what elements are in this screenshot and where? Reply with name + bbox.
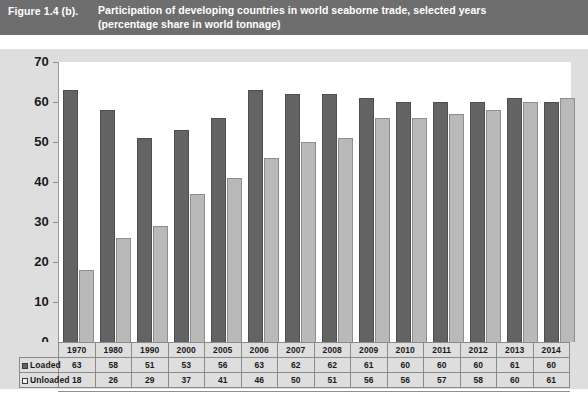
bar-loaded-2008: [322, 94, 337, 342]
bar-group-2005: [208, 62, 245, 342]
legend-label-loaded: Loaded: [30, 360, 61, 370]
table-cell-unloaded-2011: 57: [424, 373, 461, 388]
bar-group-1980: [97, 62, 134, 342]
figure-caption-line-1: Participation of developing countries in…: [98, 4, 486, 16]
bar-unloaded-2009: [375, 118, 390, 342]
table-row-unloaded: Unloaded1826293741465051565657586061: [20, 373, 570, 388]
table-header-year: 1990: [132, 343, 169, 358]
bar-unloaded-1990: [153, 226, 168, 342]
table-cell-loaded-1980: 58: [95, 358, 132, 373]
bar-group-2009: [356, 62, 393, 342]
bar-group-1970: [60, 62, 97, 342]
bar-group-2012: [467, 62, 504, 342]
table-cell-unloaded-2013: 60: [497, 373, 534, 388]
table-cell-loaded-2006: 63: [241, 358, 278, 373]
bar-unloaded-2006: [264, 158, 279, 342]
table-header-year: 2009: [351, 343, 388, 358]
figure-header: Figure 1.4 (b). Participation of develop…: [0, 0, 588, 35]
bar-unloaded-2008: [338, 138, 353, 342]
x-axis-line: [58, 391, 570, 392]
data-table: 1970198019902000200520062007200820092010…: [19, 342, 570, 388]
figure-caption-line-2: (percentage share in world tonnage): [98, 17, 486, 31]
table-cell-loaded-1970: 63: [59, 358, 96, 373]
bar-group-2000: [171, 62, 208, 342]
table-header-year: 2013: [497, 343, 534, 358]
bar-unloaded-2012: [486, 110, 501, 342]
table-cell-unloaded-2009: 56: [351, 373, 388, 388]
table-cell-loaded-2005: 56: [205, 358, 242, 373]
table-header-year: 2014: [533, 343, 570, 358]
table-row-loaded: Loaded6358515356636262616060606160: [20, 358, 570, 373]
bar-group-1990: [134, 62, 171, 342]
bar-group-2013: [504, 62, 541, 342]
table-cell-loaded-2014: 60: [533, 358, 570, 373]
table-header-year: 1980: [95, 343, 132, 358]
table-header-year: 2012: [460, 343, 497, 358]
table-cell-loaded-2009: 61: [351, 358, 388, 373]
bar-loaded-2014: [544, 102, 559, 342]
bar-group-2011: [430, 62, 467, 342]
bar-loaded-2011: [433, 102, 448, 342]
table-cell-unloaded-2000: 37: [168, 373, 205, 388]
bar-group-2007: [282, 62, 319, 342]
figure-caption: Participation of developing countries in…: [98, 3, 486, 31]
table-header-year: 2007: [278, 343, 315, 358]
legend-item-unloaded[interactable]: Unloaded: [20, 373, 59, 388]
bar-group-2014: [541, 62, 578, 342]
table-cell-loaded-2008: 62: [314, 358, 351, 373]
bar-loaded-2006: [248, 90, 263, 342]
table-header-year: 2006: [241, 343, 278, 358]
bar-loaded-2007: [285, 94, 300, 342]
table-cell-unloaded-1980: 26: [95, 373, 132, 388]
bar-unloaded-1980: [116, 238, 131, 342]
figure-number: Figure 1.4 (b).: [8, 3, 98, 18]
bar-loaded-1990: [137, 138, 152, 342]
legend-label-unloaded: Unloaded: [30, 375, 70, 385]
table-header-year: 2000: [168, 343, 205, 358]
table-header-year: 2008: [314, 343, 351, 358]
bar-loaded-2005: [211, 118, 226, 342]
table-cell-loaded-2012: 60: [460, 358, 497, 373]
bar-unloaded-2000: [190, 194, 205, 342]
table-corner-cell: [20, 343, 59, 358]
y-axis-tick-label: 40: [34, 174, 49, 189]
table-header-year: 1970: [59, 343, 96, 358]
bar-loaded-2010: [396, 102, 411, 342]
bar-loaded-1980: [100, 110, 115, 342]
table-cell-loaded-1990: 51: [132, 358, 169, 373]
y-axis: 010203040506070: [0, 62, 58, 342]
hollow-square-icon: [22, 378, 28, 384]
bar-loaded-1970: [63, 90, 78, 342]
table-header-year: 2010: [387, 343, 424, 358]
table-cell-unloaded-2012: 58: [460, 373, 497, 388]
table-row-years: 1970198019902000200520062007200820092010…: [20, 343, 570, 358]
bar-unloaded-2005: [227, 178, 242, 342]
chart-panel: 010203040506070 197019801990200020052006…: [0, 49, 588, 389]
bar-series-group: [59, 62, 571, 342]
table-cell-loaded-2013: 61: [497, 358, 534, 373]
table-cell-unloaded-2008: 51: [314, 373, 351, 388]
y-axis-tick-label: 50: [34, 134, 49, 149]
bar-unloaded-2010: [412, 118, 427, 342]
y-axis-tick-label: 20: [34, 254, 49, 269]
table-cell-loaded-2010: 60: [387, 358, 424, 373]
bar-loaded-2013: [507, 98, 522, 342]
bar-group-2008: [319, 62, 356, 342]
y-axis-tick-label: 70: [34, 54, 49, 69]
table-cell-unloaded-2005: 41: [205, 373, 242, 388]
table-cell-unloaded-2014: 61: [533, 373, 570, 388]
y-axis-tick-label: 10: [34, 294, 49, 309]
bar-unloaded-2011: [449, 114, 464, 342]
bar-unloaded-2013: [523, 102, 538, 342]
table-cell-unloaded-1990: 29: [132, 373, 169, 388]
figure-container: Figure 1.4 (b). Participation of develop…: [0, 0, 588, 397]
table-header-year: 2011: [424, 343, 461, 358]
table-cell-loaded-2000: 53: [168, 358, 205, 373]
plot-area: [58, 62, 571, 342]
filled-square-icon: [22, 363, 28, 369]
bar-loaded-2009: [359, 98, 374, 342]
table-header-year: 2005: [205, 343, 242, 358]
bar-unloaded-2014: [560, 98, 575, 342]
table-cell-loaded-2007: 62: [278, 358, 315, 373]
legend-item-loaded[interactable]: Loaded: [20, 358, 59, 373]
